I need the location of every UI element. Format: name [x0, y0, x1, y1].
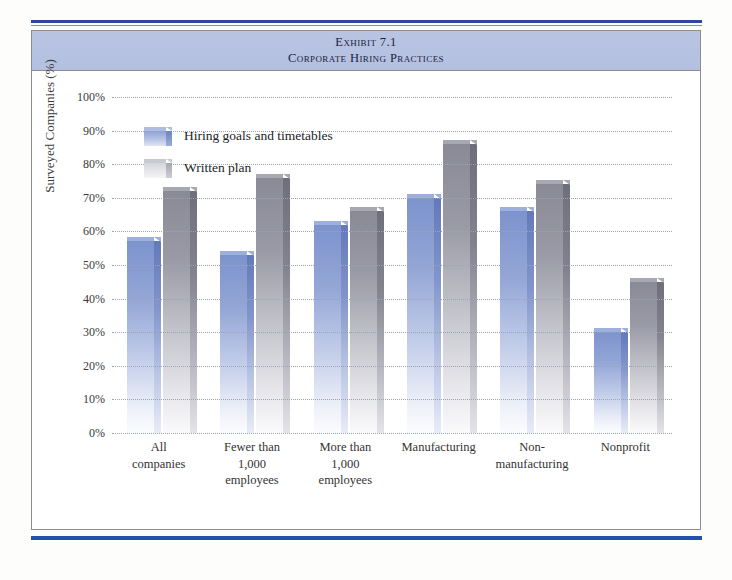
x-axis-category-label: Fewer than1,000employees — [205, 439, 298, 489]
bar-side — [190, 191, 197, 433]
bar-top-corner — [657, 278, 664, 283]
gridline: 20% — [112, 366, 672, 367]
y-axis-tick-label: 0% — [89, 426, 105, 441]
bar-top-corner — [154, 237, 161, 242]
bar-top-corner — [247, 251, 254, 256]
y-axis-tick-label: 40% — [83, 292, 105, 307]
page-rule-top — [31, 20, 702, 23]
y-axis-tick-label: 20% — [83, 359, 105, 374]
x-axis-category-label: Manufacturing — [392, 439, 485, 489]
bar-top — [630, 278, 657, 282]
bar — [594, 328, 621, 433]
bar-side — [341, 225, 348, 433]
scanned-page: Exhibit 7.1 Corporate Hiring Practices S… — [0, 0, 732, 580]
gridline: 100% — [112, 97, 672, 98]
y-axis-tick-label: 10% — [83, 393, 105, 408]
bar-side — [283, 178, 290, 433]
bar-face — [630, 282, 657, 433]
bar-face — [256, 178, 283, 433]
bar-face — [443, 144, 470, 433]
legend-item: Hiring goals and timetables — [144, 126, 333, 146]
bar — [256, 174, 283, 433]
gridline: 60% — [112, 231, 672, 232]
bar-top — [314, 221, 341, 225]
bar — [443, 140, 470, 433]
exhibit-title: Corporate Hiring Practices — [288, 51, 444, 66]
bar-top — [443, 140, 470, 144]
x-axis-category-label: Non-manufacturing — [485, 439, 578, 489]
bar — [220, 251, 247, 433]
bar-side — [470, 144, 477, 433]
bar-side — [154, 241, 161, 433]
bar-top — [220, 251, 247, 255]
legend-swatch-blue — [144, 127, 172, 146]
bar-top-corner — [377, 207, 384, 212]
bar-side — [563, 184, 570, 433]
x-axis-category-label: Nonprofit — [579, 439, 672, 489]
bar-top — [127, 237, 154, 241]
bar-top-corner — [470, 140, 477, 145]
chart-plot-area: Surveyed Companies (%) 100%90%80%70%60%5… — [32, 71, 700, 529]
bar — [536, 180, 563, 433]
chart-legend: Hiring goals and timetablesWritten plan — [144, 126, 333, 190]
bar-face — [594, 332, 621, 433]
bar-top-corner — [527, 207, 534, 212]
bar-face — [536, 184, 563, 433]
bar — [127, 237, 154, 433]
bar — [630, 278, 657, 433]
y-axis-tick-label: 70% — [83, 191, 105, 206]
y-axis-tick-label: 60% — [83, 225, 105, 240]
legend-swatch-gray — [144, 159, 172, 178]
bar-side — [621, 332, 628, 433]
y-axis-label: Surveyed Companies (%) — [42, 51, 58, 201]
gridline: 10% — [112, 399, 672, 400]
bar-side — [657, 282, 664, 433]
y-axis-tick-label: 50% — [83, 258, 105, 273]
page-rule-top-thin — [31, 25, 702, 26]
bar-top-corner — [563, 180, 570, 185]
legend-label: Written plan — [184, 160, 251, 176]
bar-face — [127, 241, 154, 433]
bar — [407, 194, 434, 433]
bar — [163, 187, 190, 433]
y-axis-tick-label: 80% — [83, 157, 105, 172]
legend-label: Hiring goals and timetables — [184, 128, 333, 144]
y-axis-tick-label: 90% — [83, 124, 105, 139]
bar-face — [407, 198, 434, 433]
gridline: 0% — [112, 433, 672, 434]
bar — [314, 221, 341, 433]
exhibit-header: Exhibit 7.1 Corporate Hiring Practices — [32, 31, 700, 71]
page-rule-bottom — [31, 536, 702, 540]
bar-side — [247, 255, 254, 433]
gridline: 40% — [112, 299, 672, 300]
x-axis-category-label: Allcompanies — [112, 439, 205, 489]
legend-item: Written plan — [144, 158, 333, 178]
bar-top-corner — [341, 221, 348, 226]
gridline: 50% — [112, 265, 672, 266]
bar-top — [536, 180, 563, 184]
y-axis-tick-label: 30% — [83, 325, 105, 340]
y-axis-tick-label: 100% — [77, 90, 105, 105]
exhibit-number: Exhibit 7.1 — [335, 35, 396, 50]
bar-face — [163, 191, 190, 433]
bar-side — [434, 198, 441, 433]
bar-face — [220, 255, 247, 433]
exhibit-box: Exhibit 7.1 Corporate Hiring Practices S… — [31, 30, 701, 530]
bar-face — [314, 225, 341, 433]
x-axis-labels: AllcompaniesFewer than1,000employeesMore… — [112, 439, 672, 489]
gridline: 70% — [112, 198, 672, 199]
x-axis-category-label: More than1,000employees — [299, 439, 392, 489]
gridline: 30% — [112, 332, 672, 333]
bar-top — [500, 207, 527, 211]
bar-top — [350, 207, 377, 211]
